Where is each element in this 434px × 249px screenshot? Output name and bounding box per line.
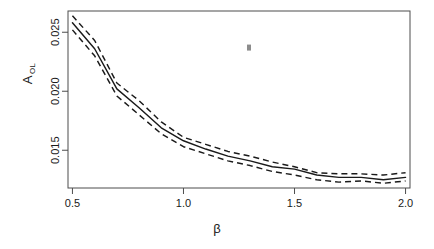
y-tick-label: 0.020 xyxy=(49,77,61,105)
x-axis-title: β xyxy=(213,221,220,236)
y-axis-title-base: A xyxy=(20,75,35,84)
chart-canvas: 0.51.01.52.0 0.0150.0200.025 β A OL xyxy=(0,0,434,249)
x-tick-label: 1.0 xyxy=(176,197,191,209)
x-tick-label: 2.0 xyxy=(398,197,413,209)
x-tick-label: 0.5 xyxy=(65,197,80,209)
stray-mark xyxy=(247,45,251,51)
y-tick-label: 0.015 xyxy=(49,136,61,164)
stray-speck xyxy=(247,45,251,51)
y-tick-label: 0.025 xyxy=(49,18,61,46)
y-axis-title-subscript: OL xyxy=(28,63,37,74)
x-axis-title-text: β xyxy=(213,221,220,236)
chart-figure: 0.51.01.52.0 0.0150.0200.025 β A OL xyxy=(0,0,434,249)
figure-background xyxy=(0,0,434,249)
y-axis-tick-labels: 0.0150.0200.025 xyxy=(49,18,61,164)
x-tick-label: 1.5 xyxy=(287,197,302,209)
